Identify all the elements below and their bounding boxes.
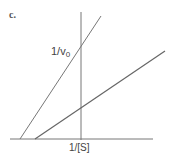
- panel-label: c.: [9, 10, 16, 20]
- y-axis-label-main: 1/v: [51, 45, 66, 57]
- x-axis-label: 1/[S]: [69, 143, 90, 153]
- steep-line: [20, 16, 101, 139]
- shallow-line: [35, 51, 165, 139]
- y-axis-label-subscript: 0: [66, 50, 70, 59]
- y-axis-label: 1/v0: [51, 46, 70, 59]
